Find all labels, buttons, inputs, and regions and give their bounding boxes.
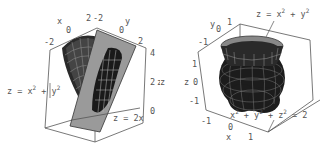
y-tick-0: 0 <box>119 25 124 35</box>
box-bottom-back-edge <box>45 120 72 128</box>
paraboloid-plane-plot: x -2 0 2 -2 0 y 2 4 2 z 0 z = x2 + y2 z … <box>0 0 160 148</box>
paraboloid-equation-label: z = x2 + y2 <box>7 84 61 96</box>
x-tick-0: 0 <box>66 25 71 35</box>
x-tick-1: 1 <box>248 132 253 142</box>
left-plot-svg: x -2 0 2 -2 0 y 2 4 2 z 0 z = x2 + y2 z … <box>0 0 160 148</box>
x-tick-neg2: -2 <box>44 37 54 47</box>
z-tick-4: 4 <box>150 48 155 58</box>
y-tick-neg2: -2 <box>93 13 103 23</box>
paraboloid-equation-label: z = x2 + y2 <box>256 7 310 19</box>
sphere-equation-label: x2 + y2 + z2 = 2 <box>230 108 307 120</box>
y-axis-label: y <box>210 19 215 29</box>
paraboloid-sphere-plot: y 0 1 -1 1 z z 0 -1 -1 0 x 1 z = x2 + y2… <box>160 0 327 148</box>
plane-equation-label: z = 2x <box>113 113 144 123</box>
paraboloid-pointer <box>266 21 274 37</box>
x-axis-label: x <box>57 16 62 26</box>
y-tick-1: 1 <box>227 17 232 27</box>
x-tick-0: 0 <box>228 122 233 132</box>
y-axis-label: y <box>125 16 130 26</box>
y-tick-2: 2 <box>138 36 143 46</box>
right-plot-svg: y 0 1 -1 1 z z 0 -1 -1 0 x 1 z = x2 + y2… <box>160 0 327 148</box>
z-tick-0: 0 <box>150 106 155 116</box>
z-outer-label: z <box>160 77 165 87</box>
x-axis-label: x <box>226 132 231 142</box>
y-tick-neg1: -1 <box>198 37 208 47</box>
box-right-edge <box>143 48 146 123</box>
y-tick-0: 0 <box>216 24 221 34</box>
x-tick-2: 2 <box>86 13 91 23</box>
x-tick-neg1: -1 <box>201 116 211 126</box>
z-tick-2: 2 <box>150 77 155 87</box>
paraboloid-outer-wall <box>221 46 283 66</box>
z-tick-1: 1 <box>192 59 197 69</box>
box-right-edge <box>310 40 313 100</box>
z-axis-label: z <box>184 77 189 87</box>
z-tick-neg1: -1 <box>189 96 199 106</box>
z-tick-0: 0 <box>193 77 198 87</box>
